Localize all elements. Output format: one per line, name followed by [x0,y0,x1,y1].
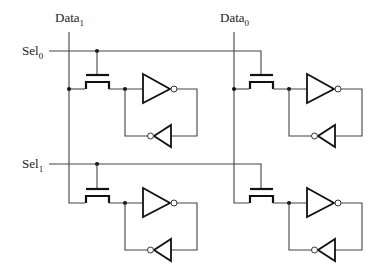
inverter-icon [143,74,170,103]
junction-dot [232,87,236,91]
feedback-wire [171,203,197,250]
inversion-bubble [171,86,177,92]
feedback-wire [171,89,197,136]
inverter-icon [307,188,334,217]
pass-transistor [86,189,109,203]
inversion-bubble [148,133,154,139]
memory-cell-schematic: Data1 Data0 Sel0 Sel1 [0,0,385,272]
pass-transistor [86,75,109,89]
sel0-label: Sel0 [22,43,44,61]
cell-sel0-data1 [67,49,197,147]
feedback-inverter-icon [318,125,335,147]
data1-label: Data1 [55,10,84,28]
cell-sel1-data1 [86,162,197,261]
junction-dot [67,87,71,91]
feedback-wire [335,203,362,250]
data0-bit-line [234,32,249,203]
inverter-icon [307,74,334,103]
sel1-label: Sel1 [22,156,43,174]
cell-sel1-data0 [250,188,362,261]
feedback-inverter-icon [318,239,335,261]
sel1-word-line [49,164,261,189]
inversion-bubble [335,86,341,92]
inversion-bubble [148,247,154,253]
inverter-icon [143,188,170,217]
inversion-bubble [312,247,318,253]
cell-sel0-data0 [232,74,362,147]
pass-transistor [250,189,273,203]
data1-bit-line [69,32,85,203]
feedback-inverter-icon [154,125,171,147]
pass-transistor [250,75,273,89]
inversion-bubble [312,133,318,139]
inversion-bubble [335,200,341,206]
feedback-inverter-icon [154,239,171,261]
sel0-word-line [49,51,261,75]
data0-label: Data0 [220,10,250,28]
feedback-wire [335,89,362,136]
inversion-bubble [171,200,177,206]
